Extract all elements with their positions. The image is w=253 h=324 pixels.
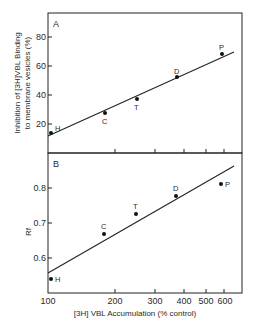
data-point-t (134, 212, 138, 216)
y-tick-label: 0.6 (33, 253, 46, 263)
y-tick-label: 40 (36, 90, 46, 100)
y-tick-label: 0.7 (33, 218, 46, 228)
data-point-c (102, 232, 106, 236)
panel-b-points: H C T D P (49, 180, 230, 284)
panel-a-label: A (53, 19, 59, 29)
x-tick-label: 200 (107, 296, 122, 306)
x-tick-label: 600 (217, 296, 232, 306)
y-tick-label: 0.8 (33, 183, 46, 193)
point-label: P (225, 180, 230, 189)
panel-b-label: B (53, 159, 59, 169)
x-axis-title: [3H] VBL Accumulation (% control) (74, 309, 197, 318)
panel-a-fit-line (48, 52, 234, 136)
data-point-p (219, 182, 223, 186)
point-label: T (134, 103, 139, 112)
data-point-h (49, 277, 53, 281)
panel-a-y-axis: 80 60 40 20 (36, 32, 52, 129)
point-label: C (102, 117, 108, 126)
point-label: T (133, 202, 138, 211)
y-tick-label: 80 (36, 32, 46, 42)
point-label: C (101, 222, 107, 231)
y-tick-label: 60 (36, 61, 46, 71)
middle-x-ticks (115, 149, 224, 153)
x-tick-label: 300 (147, 296, 162, 306)
panel-b-y-axis: 0.8 0.7 0.6 (33, 183, 52, 263)
chart-figure: A B 80 60 40 20 Inhibition of [3H]VBL Bi… (0, 0, 253, 324)
data-point-d (174, 194, 178, 198)
y-tick-label: 20 (36, 119, 46, 129)
y-title-line2: to membrane vesicles (%) (23, 36, 32, 129)
panel-b-frame (48, 153, 242, 293)
point-label: D (174, 67, 180, 76)
data-point-t (135, 97, 139, 101)
data-point-c (103, 111, 107, 115)
x-tick-label: 400 (176, 296, 191, 306)
panel-b-y-title: Rf (24, 227, 33, 236)
y-title-rf: Rf (24, 227, 33, 236)
data-point-h (49, 131, 53, 135)
point-label: H (55, 124, 60, 133)
point-label: D (173, 184, 179, 193)
x-tick-label: 500 (198, 296, 213, 306)
panel-b-fit-line (48, 166, 234, 273)
point-label: P (219, 43, 224, 52)
data-point-p (220, 52, 224, 56)
panel-a-points: H C T D P (49, 43, 224, 135)
y-title-line1: Inhibition of [3H]VBL Binding (13, 32, 22, 134)
panel-a-frame (48, 13, 242, 153)
x-tick-label: 100 (40, 296, 55, 306)
point-label: H (55, 275, 60, 284)
panel-a-y-title: Inhibition of [3H]VBL Binding to membran… (13, 32, 32, 134)
